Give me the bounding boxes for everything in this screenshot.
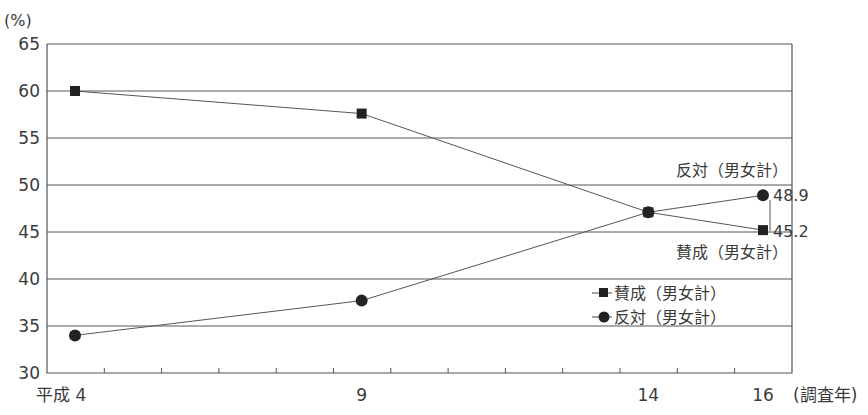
- y-axis-tick-labels: 3035404550556065: [18, 34, 40, 383]
- annotation-oppose-value: 48.9: [773, 186, 809, 205]
- y-tick-label: 50: [18, 175, 40, 195]
- x-tick-label: 9: [356, 385, 367, 405]
- x-tick-label: 16: [752, 385, 774, 405]
- y-tick-label: 45: [18, 222, 40, 242]
- x-tick-label: 平成 4: [36, 385, 86, 405]
- annotation-agree-label: 賛成（男女計）: [676, 243, 788, 262]
- legend-circle-marker-icon: [599, 312, 610, 323]
- series-layer: [69, 86, 769, 341]
- x-tick-label: 14: [638, 385, 660, 405]
- square-marker-icon: [758, 225, 768, 235]
- annotation-oppose-label: 反対（男女計）: [676, 161, 788, 180]
- circle-marker-icon: [69, 329, 81, 341]
- y-tick-label: 65: [18, 34, 40, 54]
- y-tick-label: 55: [18, 128, 40, 148]
- y-tick-label: 60: [18, 81, 40, 101]
- annotation-agree-value: 45.2: [773, 222, 809, 241]
- legend-agree-label: 賛成（男女計）: [614, 284, 726, 303]
- x-axis-unit-label: (調査年): [793, 385, 857, 405]
- circle-marker-icon: [757, 189, 769, 201]
- y-tick-label: 40: [18, 269, 40, 289]
- circle-marker-icon: [356, 295, 368, 307]
- square-marker-icon: [357, 109, 367, 119]
- y-tick-label: 30: [18, 363, 40, 383]
- legend: 賛成（男女計） 反対（男女計）: [592, 284, 726, 327]
- y-axis-unit-label: (%): [4, 11, 32, 30]
- y-tick-label: 35: [18, 316, 40, 336]
- legend-square-marker-icon: [599, 288, 608, 297]
- legend-oppose-label: 反対（男女計）: [614, 308, 726, 327]
- square-marker-icon: [70, 86, 80, 96]
- line-chart: 3035404550556065 平成 491416 (%) 反対（男女計） 4…: [0, 0, 868, 415]
- series-line: [75, 91, 763, 230]
- circle-marker-icon: [642, 206, 654, 218]
